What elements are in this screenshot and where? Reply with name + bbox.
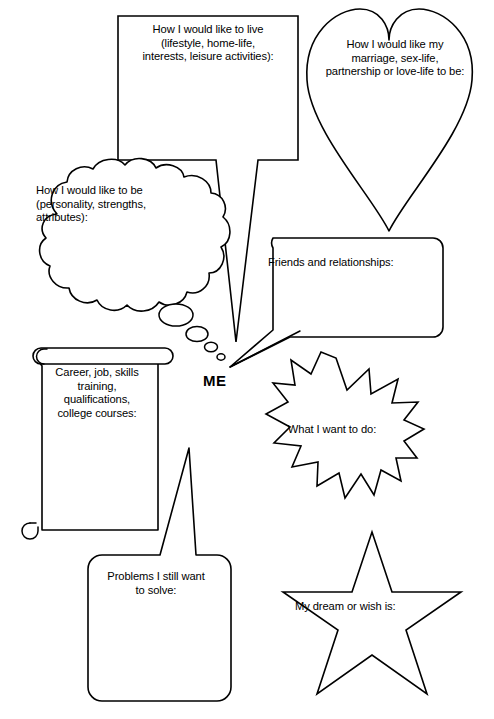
career-scroll-bottom-curl <box>22 523 38 539</box>
thought-dot-2 <box>186 327 208 342</box>
career-scroll-top-roll <box>33 348 173 364</box>
thought-dot-1 <box>159 304 193 326</box>
thought-dot-4 <box>217 354 225 360</box>
personality-cloud-label: How I would like to be (personality, str… <box>36 184 196 225</box>
me-worksheet: How I would like to live (lifestyle, hom… <box>0 0 494 719</box>
dream-star-label: My dream or wish is: <box>295 600 429 614</box>
lifestyle-bubble-label: How I would like to live (lifestyle, hom… <box>122 23 294 64</box>
problems-bubble-label: Problems I still want to solve: <box>88 570 224 597</box>
love-life-heart-label: How I would like my marriage, sex-life, … <box>303 38 487 79</box>
what-i-want-starburst-label: What I want to do: <box>262 423 402 437</box>
career-scroll-label: Career, job, skills training, qualificat… <box>32 366 162 420</box>
center-me-label: ME <box>203 372 226 389</box>
personality-cloud-shape[interactable] <box>40 159 230 312</box>
friends-bubble-label: Friends and relationships: <box>268 256 436 270</box>
thought-dot-3 <box>205 342 218 352</box>
